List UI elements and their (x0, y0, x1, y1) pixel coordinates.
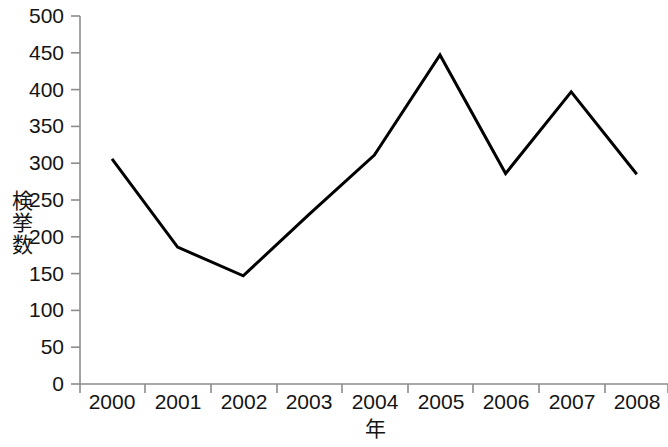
y-tick-label-450: 450 (8, 41, 64, 65)
x-tick-label-2000: 2000 (89, 390, 136, 414)
y-tick-label-50: 50 (8, 335, 64, 359)
y-axis-ticks (71, 16, 80, 384)
x-tick-label-2002: 2002 (221, 390, 268, 414)
x-tick-label-2006: 2006 (483, 390, 530, 414)
y-tick-label-400: 400 (8, 78, 64, 102)
y-tick-label-100: 100 (8, 298, 64, 322)
y-tick-label-0: 0 (8, 372, 64, 396)
x-tick-label-2005: 2005 (418, 390, 465, 414)
x-tick-label-2003: 2003 (286, 390, 333, 414)
x-tick-label-2007: 2007 (549, 390, 596, 414)
x-axis-title: 年 (365, 412, 386, 442)
y-tick-label-300: 300 (8, 151, 64, 175)
y-axis-title: 検挙数 (6, 190, 36, 256)
x-tick-label-2008: 2008 (614, 390, 661, 414)
y-tick-label-150: 150 (8, 262, 64, 286)
line-chart: 0 50 100 150 200 250 300 350 400 450 500… (0, 0, 668, 447)
x-tick-label-2004: 2004 (352, 390, 399, 414)
y-tick-label-500: 500 (8, 4, 64, 28)
chart-plot-area (0, 0, 668, 447)
y-tick-label-350: 350 (8, 114, 64, 138)
data-series-line (112, 55, 637, 276)
x-tick-label-2001: 2001 (155, 390, 202, 414)
